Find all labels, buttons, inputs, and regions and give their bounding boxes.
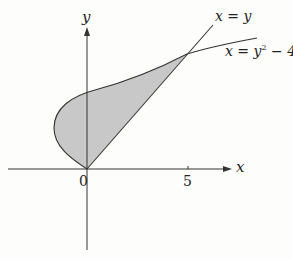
parabola-label: x = y2 − 4y (225, 44, 293, 58)
y-axis-arrow-icon (84, 27, 90, 36)
diagram-graphics (0, 0, 293, 259)
line-label: x = y (215, 9, 251, 23)
x-tick-label-5: 5 (183, 174, 192, 188)
parabola-label-prefix: x = y (225, 43, 261, 59)
diagram-canvas: y x 0 5 x = y x = y2 − 4y (0, 0, 293, 259)
x-axis-arrow-icon (223, 166, 232, 172)
shaded-region (54, 54, 187, 169)
y-axis-label: y (82, 10, 90, 25)
x-axis-label: x (236, 160, 244, 175)
parabola-label-suffix: − 4y (267, 43, 293, 59)
origin-label: 0 (79, 174, 88, 188)
